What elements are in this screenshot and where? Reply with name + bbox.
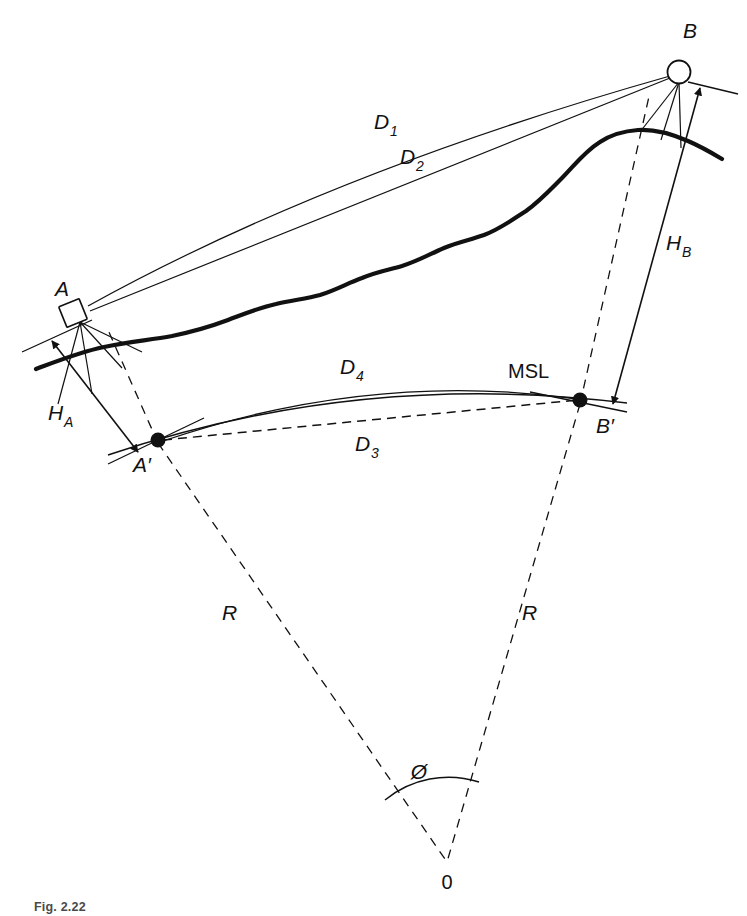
label-d4-base: D <box>340 355 355 378</box>
label-earth-center: 0 <box>441 871 452 893</box>
label-d3-sub: 3 <box>371 445 379 461</box>
label-d2-base: D <box>400 145 415 168</box>
label-point-a: A <box>53 277 69 300</box>
label-point-b-prime: B′ <box>596 414 615 437</box>
label-height-a-base: H <box>48 401 64 424</box>
label-central-angle: Ø <box>410 760 429 783</box>
label-d3-base: D <box>355 432 370 455</box>
label-d2-sub: 2 <box>415 158 424 174</box>
label-msl: MSL <box>508 360 549 382</box>
station-b-marker <box>668 61 691 84</box>
label-d4-sub: 4 <box>356 368 364 384</box>
label-point-a-prime: A′ <box>131 453 152 476</box>
label-d1-sub: 1 <box>390 123 398 139</box>
label-height-a-sub: A <box>63 414 73 430</box>
label-height-b-sub: B <box>682 244 691 260</box>
label-radius-right: R <box>522 601 537 624</box>
station-b-prime-marker <box>573 393 588 408</box>
figure-root: B A A′ B′ MSL D 1 D 2 D 4 D 3 H <box>0 0 747 916</box>
label-d1-base: D <box>374 110 389 133</box>
label-point-b: B <box>683 19 697 42</box>
figure-caption: Fig. 2.22 <box>34 900 86 916</box>
label-radius-left: R <box>222 601 237 624</box>
geodetic-distance-diagram: B A A′ B′ MSL D 1 D 2 D 4 D 3 H <box>0 0 747 916</box>
label-height-b-base: H <box>666 231 682 254</box>
station-a-prime-marker <box>151 433 166 448</box>
